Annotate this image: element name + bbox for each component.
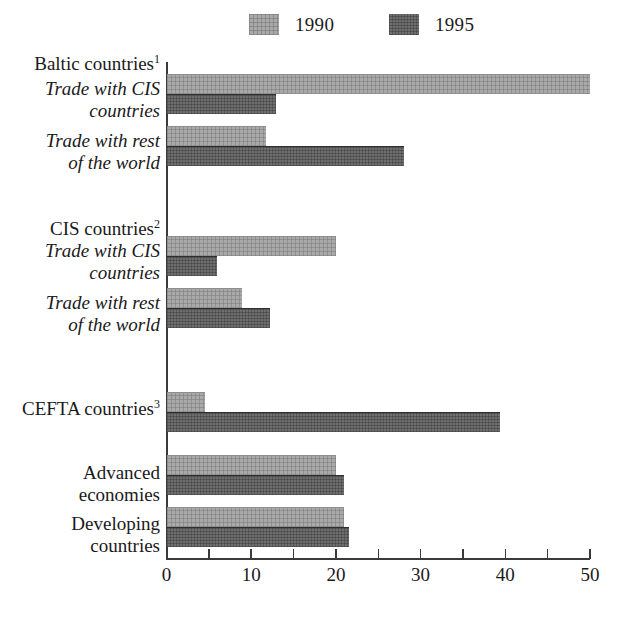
plot-area: 01020304050 Baltic countries1 Trade with… (0, 0, 636, 619)
bar-1990-4 (167, 392, 206, 412)
group-heading-cis: CIS countries2 (0, 218, 166, 240)
category-label-line-2: of the world (0, 314, 160, 336)
x-axis-tick (378, 549, 380, 559)
x-axis-tick (462, 549, 464, 559)
category-label-cefta-footnote: 3 (154, 397, 160, 411)
category-label-cis-trade-row: Trade with rest of the world (0, 292, 166, 336)
category-label-advanced: Advanced economies (0, 462, 166, 506)
x-axis-tick (208, 549, 210, 559)
bar-1995-2 (167, 256, 218, 276)
x-axis-ticklabel: 50 (581, 564, 600, 586)
bar-1990-2 (167, 236, 336, 256)
group-heading-baltic-footnote: 1 (154, 52, 160, 66)
category-label-cefta-text: CEFTA countries (22, 398, 154, 419)
category-label-line-2: countries (0, 262, 160, 284)
group-heading-cis-footnote: 2 (154, 217, 160, 231)
category-label-line-2: economies (0, 484, 160, 506)
category-label-line-1: Trade with CIS (0, 240, 160, 262)
category-label-line-1: Advanced (0, 462, 160, 484)
category-label-baltic-trade-cis: Trade with CIS countries (0, 78, 166, 122)
category-label-line-1: Trade with rest (0, 130, 160, 152)
bar-1990-0 (167, 74, 591, 94)
bar-1995-0 (167, 94, 276, 114)
group-heading-baltic-text: Baltic countries (34, 53, 154, 74)
x-axis-tick (293, 549, 295, 559)
x-axis-tick (420, 549, 422, 559)
bar-1995-5 (167, 475, 345, 495)
x-axis-tick (250, 549, 252, 559)
x-axis-tick (589, 549, 591, 559)
bar-1990-6 (167, 507, 345, 527)
category-label-line-1: Developing (0, 513, 160, 535)
x-axis-tick (335, 549, 337, 559)
x-axis-tick (547, 549, 549, 559)
category-label-developing: Developing countries (0, 513, 166, 557)
x-axis-ticklabel: 30 (411, 564, 430, 586)
x-axis-ticklabel: 0 (162, 564, 172, 586)
group-heading-cis-text: CIS countries (50, 218, 154, 239)
bar-1995-6 (167, 527, 349, 547)
x-axis-ticklabel: 10 (242, 564, 261, 586)
bar-chart: 1990 1995 01020304050 Baltic countries1 … (0, 0, 636, 619)
bar-1990-3 (167, 288, 242, 308)
x-axis-ticklabel: 40 (496, 564, 515, 586)
category-label-line-2: countries (0, 535, 160, 557)
category-label-line-2: of the world (0, 152, 160, 174)
category-label-line-1: Trade with CIS (0, 78, 160, 100)
group-heading-baltic: Baltic countries1 (0, 53, 166, 75)
bar-1990-5 (167, 455, 336, 475)
bar-1995-1 (167, 146, 404, 166)
category-label-cis-trade-cis: Trade with CIS countries (0, 240, 166, 284)
bar-1995-4 (167, 412, 501, 432)
x-axis-ticklabel: 20 (326, 564, 345, 586)
bar-1995-3 (167, 308, 270, 328)
category-label-line-2: countries (0, 100, 160, 122)
bar-1990-1 (167, 126, 267, 146)
category-label-cefta: CEFTA countries3 (0, 398, 166, 420)
category-label-line-1: Trade with rest (0, 292, 160, 314)
x-axis-tick (505, 549, 507, 559)
category-label-baltic-trade-row: Trade with rest of the world (0, 130, 166, 174)
